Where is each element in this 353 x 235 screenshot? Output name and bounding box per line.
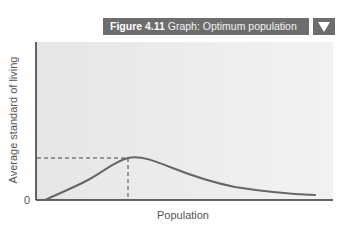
x-axis-label: Population xyxy=(157,209,209,221)
origin-label: 0 xyxy=(24,194,30,206)
y-axis-label: Average standard of living xyxy=(7,57,19,184)
plot-area xyxy=(36,42,333,200)
line-chart xyxy=(0,0,353,235)
